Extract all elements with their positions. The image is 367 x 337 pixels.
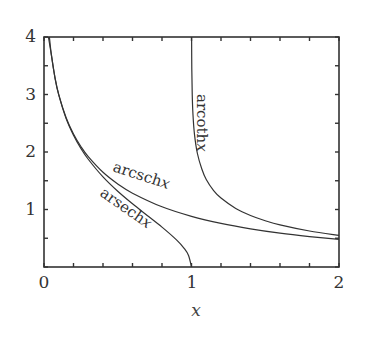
x-tick-label-2: 2: [334, 272, 345, 292]
curves-group: [48, 37, 339, 267]
y-tick-label-2: 2: [25, 141, 36, 161]
y-tick-label-3: 3: [25, 84, 36, 104]
y-tick-label-1: 1: [25, 199, 36, 219]
x-tick-labels: 0 1 2: [39, 272, 345, 292]
chart-canvas: 4 3 2 1 0 1 2 x arcschx arsechx arcothx: [0, 0, 367, 337]
x-axis-label: x: [191, 300, 201, 320]
x-tick-label-1: 1: [187, 272, 198, 292]
arcsch-label: arcschx: [111, 158, 173, 193]
y-tick-labels: 4 3 2 1: [25, 26, 36, 219]
x-tick-label-0: 0: [39, 272, 50, 292]
arsech-label: arsechx: [97, 184, 156, 233]
arcoth-curve: [192, 37, 339, 235]
y-tick-label-4: 4: [25, 26, 36, 46]
arsech-curve: [48, 37, 191, 267]
arcoth-label: arcothx: [193, 94, 211, 152]
